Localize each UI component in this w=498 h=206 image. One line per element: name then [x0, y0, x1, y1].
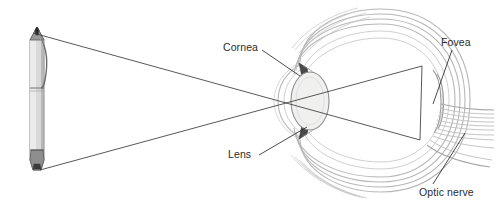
leader-lines [259, 50, 465, 184]
pen-object [30, 27, 47, 170]
label-fovea: Fovea [441, 36, 471, 48]
lens [291, 72, 329, 130]
label-cornea: Cornea [223, 41, 258, 53]
label-lens: Lens [228, 148, 251, 160]
leader-cornea [262, 50, 300, 76]
eye-optics-diagram [0, 0, 498, 206]
retinal-image [420, 66, 422, 140]
label-optic-nerve: Optic nerve [419, 186, 474, 198]
